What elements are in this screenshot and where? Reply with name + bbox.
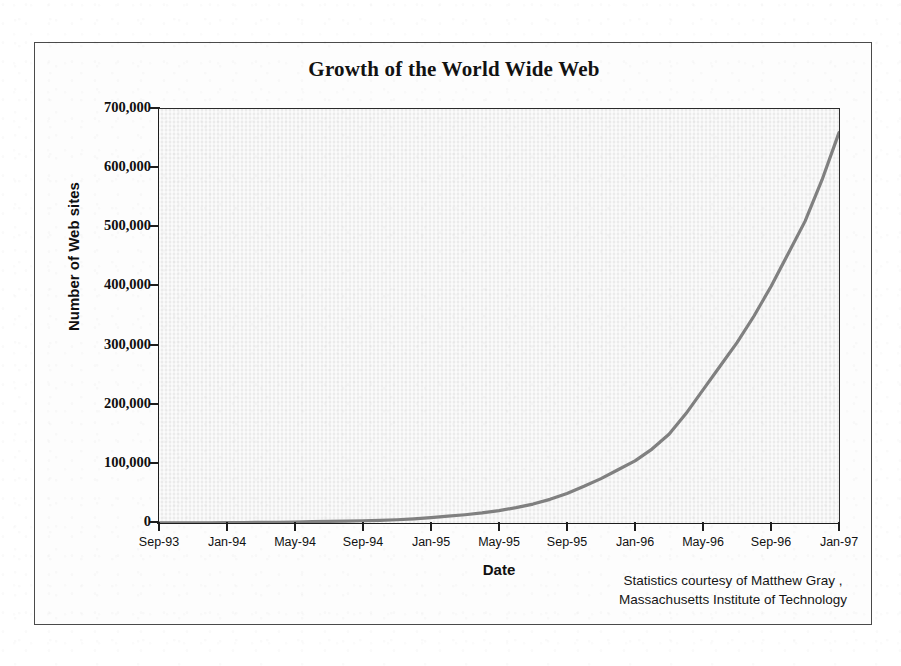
x-axis-tick bbox=[430, 522, 432, 531]
y-axis-tick bbox=[150, 284, 159, 286]
y-axis-title: Number of Web sites bbox=[65, 157, 82, 357]
credit-note: Statistics courtesy of Matthew Gray , Ma… bbox=[619, 571, 847, 610]
y-axis-tick-label: 0 bbox=[55, 514, 151, 529]
series-line-svg bbox=[159, 109, 839, 523]
chart-figure-frame: Growth of the World Wide Web 0100,000200… bbox=[34, 42, 872, 625]
y-axis-tick bbox=[150, 225, 159, 227]
x-axis-tick bbox=[226, 522, 228, 531]
x-axis-tick bbox=[566, 522, 568, 531]
x-axis-tick bbox=[158, 522, 160, 531]
credit-line-2: Massachusetts Institute of Technology bbox=[619, 590, 847, 610]
x-axis-tick bbox=[498, 522, 500, 531]
y-axis-tick bbox=[150, 107, 159, 109]
y-axis-tick bbox=[150, 521, 159, 523]
web-sites-series-line bbox=[159, 133, 839, 523]
chart-title: Growth of the World Wide Web bbox=[35, 57, 873, 82]
y-axis-tick-label: 100,000 bbox=[55, 455, 151, 470]
x-axis-tick-label: Jan-97 bbox=[799, 535, 879, 549]
credit-line-1: Statistics courtesy of Matthew Gray , bbox=[619, 571, 847, 591]
x-axis-tick bbox=[702, 522, 704, 531]
y-axis-tick-label: 700,000 bbox=[55, 100, 151, 115]
x-axis-tick bbox=[294, 522, 296, 531]
x-axis-tick bbox=[770, 522, 772, 531]
y-axis-tick bbox=[150, 403, 159, 405]
plot-area bbox=[159, 108, 840, 523]
y-axis-tick bbox=[150, 166, 159, 168]
x-axis-tick bbox=[634, 522, 636, 531]
y-axis-tick bbox=[150, 344, 159, 346]
x-axis-tick bbox=[362, 522, 364, 531]
x-axis-tick bbox=[838, 522, 840, 531]
y-axis-tick-label: 200,000 bbox=[55, 396, 151, 411]
y-axis-tick bbox=[150, 462, 159, 464]
